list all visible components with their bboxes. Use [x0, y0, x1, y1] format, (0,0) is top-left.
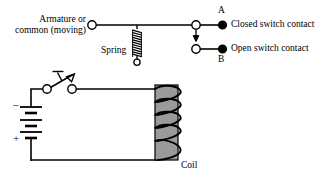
spring-icon	[133, 30, 142, 59]
contact-b-label: B	[218, 54, 224, 65]
armature-label-line1: Armature or	[2, 14, 86, 25]
closed-switch-contact-label: Closed switch contact	[231, 19, 314, 30]
battery-negative-label: –	[13, 99, 19, 110]
pivot-arrow-icon	[193, 30, 199, 42]
switch-left-terminal-icon	[43, 85, 51, 93]
spring-terminal-icon	[134, 59, 140, 65]
switch-right-terminal-icon	[68, 85, 76, 93]
contact-b-closed-terminal-icon	[219, 45, 227, 53]
battery-positive-label: +	[13, 133, 19, 144]
contact-b-open-terminal-icon	[192, 45, 200, 53]
armature-terminal-icon	[88, 21, 96, 29]
wire-switch-to-battery	[31, 89, 43, 104]
coil-label: Coil	[181, 160, 197, 171]
armature-label-line2: common (moving)	[2, 25, 86, 36]
contact-a-closed-terminal-icon	[219, 21, 227, 29]
relay-diagram-canvas: Armature or common (moving) Spring Coil …	[0, 0, 330, 178]
switch-arrow-icon	[67, 74, 75, 82]
push-button-actuator-icon	[53, 72, 64, 82]
contact-a-open-terminal-icon	[192, 21, 200, 29]
spring-label: Spring	[101, 45, 126, 56]
contact-a-label: A	[218, 5, 225, 16]
battery-icon	[20, 104, 42, 161]
open-switch-contact-label: Open switch contact	[231, 43, 309, 54]
